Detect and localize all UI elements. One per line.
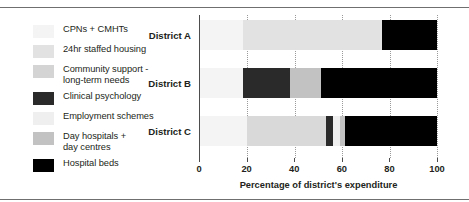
bar-segment[interactable] <box>290 68 321 98</box>
x-axis: 020406080100 <box>199 158 437 159</box>
plot-area: District ADistrict BDistrict C 020406080… <box>200 15 437 158</box>
legend-item[interactable]: 24hr staffed housing <box>33 44 183 60</box>
chart-legend: CPNs + CMHTs24hr staffed housingCommunit… <box>33 24 183 178</box>
gridline <box>437 15 438 158</box>
x-axis-tick <box>389 158 390 162</box>
bar-category-label: District C <box>148 126 191 137</box>
x-axis-label: Percentage of district's expenditure <box>200 180 437 190</box>
bar-row[interactable]: District C <box>200 116 437 146</box>
bar-segment[interactable] <box>321 68 437 98</box>
x-axis-tick-label: 60 <box>337 164 347 174</box>
legend-swatch-icon <box>33 132 54 145</box>
top-divider-rule <box>0 7 469 8</box>
legend-item[interactable]: Employment schemes <box>33 111 183 127</box>
x-axis-tick <box>437 158 438 162</box>
bar-category-label: District A <box>149 30 191 41</box>
bottom-divider-rule <box>0 199 469 200</box>
x-axis-tick-label: 20 <box>241 164 251 174</box>
bar-segment[interactable] <box>243 20 383 50</box>
legend-item-label: Day hospitals + day centres <box>63 131 126 154</box>
x-axis-tick-label: 80 <box>384 164 394 174</box>
bar-segment[interactable] <box>200 68 243 98</box>
legend-item-label: 24hr staffed housing <box>63 44 146 55</box>
legend-item-label: Clinical psychology <box>63 91 141 102</box>
x-axis-tick-label: 0 <box>196 164 201 174</box>
legend-item-label: Community support - long-term needs <box>63 64 148 87</box>
bar-segment[interactable] <box>200 20 243 50</box>
x-axis-tick <box>342 158 343 162</box>
legend-item-label: Hospital beds <box>63 158 119 169</box>
bar-row[interactable]: District A <box>200 20 437 50</box>
legend-item-label: Employment schemes <box>63 111 154 122</box>
legend-swatch-icon <box>33 25 54 38</box>
legend-item-label: CPNs + CMHTs <box>63 24 128 35</box>
x-axis-tick-label: 100 <box>429 164 445 174</box>
bar-segment[interactable] <box>243 68 290 98</box>
legend-swatch-icon <box>33 92 54 105</box>
x-axis-tick <box>247 158 248 162</box>
bar-category-label: District B <box>148 78 191 89</box>
bar-row[interactable]: District B <box>200 68 437 98</box>
x-axis-tick <box>294 158 295 162</box>
bar-segment[interactable] <box>200 116 247 146</box>
legend-item[interactable]: Clinical psychology <box>33 91 183 107</box>
bar-segment[interactable] <box>326 116 333 146</box>
legend-swatch-icon <box>33 45 54 58</box>
bar-segment[interactable] <box>382 20 437 50</box>
chart-figure: CPNs + CMHTs24hr staffed housingCommunit… <box>0 0 469 202</box>
x-axis-tick-label: 40 <box>289 164 299 174</box>
bar-segment[interactable] <box>345 116 437 146</box>
bar-segment[interactable] <box>333 116 340 146</box>
bar-segment[interactable] <box>247 116 325 146</box>
legend-item[interactable]: Hospital beds <box>33 158 183 174</box>
legend-swatch-icon <box>33 112 54 125</box>
legend-swatch-icon <box>33 159 54 172</box>
legend-swatch-icon <box>33 65 54 78</box>
x-axis-tick <box>199 158 200 162</box>
